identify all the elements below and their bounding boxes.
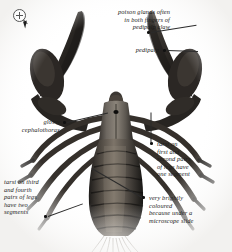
figure-canvas: poison glands often in both fingers of p…	[0, 0, 232, 252]
annotation-poison-glands: poison glands often in both fingers of p…	[88, 8, 170, 31]
plus-horizontal-stroke	[16, 15, 23, 16]
annotation-glossy-cephalothorax: glossy cephalothorax	[8, 118, 60, 133]
callout-dot-pedipalp	[163, 49, 166, 52]
annotation-tarsi-first-second: tarsi on first and second pairs of legs …	[157, 140, 229, 178]
leader-line-tarsi-first-second	[151, 113, 152, 143]
zoom-in-magnifier-icon[interactable]	[13, 9, 26, 22]
callout-dot-tarsi-third-fourth	[44, 215, 47, 218]
annotation-brightly-coloured: very brightly coloured because under a m…	[149, 194, 231, 224]
annotation-tarsi-third-fourth: tarsi on third and fourth pairs of legs …	[4, 178, 80, 216]
callout-dot-poison-glands	[147, 31, 150, 34]
callout-dot-cephalothorax	[63, 121, 66, 124]
annotation-pedipalp: pedipalp	[110, 46, 159, 54]
